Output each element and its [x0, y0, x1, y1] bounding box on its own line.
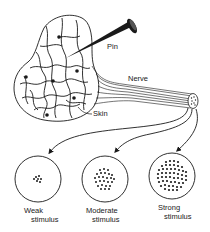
weak-stimulus-caption: Weak stimulus [24, 206, 59, 224]
strong-caption-line1: Strong [158, 203, 192, 212]
nerve-bundle [92, 66, 192, 108]
signal-arrows [50, 108, 197, 152]
moderate-caption-line1: Moderate [86, 206, 120, 215]
nerve-cross-section [188, 94, 198, 109]
skin-label: Skin [93, 110, 108, 118]
moderate-stimulus-caption: Moderate stimulus [86, 206, 120, 224]
skin-patch [14, 15, 99, 121]
strong-stimulus-caption: Strong stimulus [158, 203, 192, 221]
arrow-to-strong [178, 109, 197, 150]
arrow-to-moderate [116, 109, 192, 151]
moderate-stimulus-field [82, 156, 128, 202]
moderate-caption-line2: stimulus [86, 215, 120, 224]
nerve-label: Nerve [128, 75, 148, 83]
strong-stimulus-field [149, 153, 195, 199]
pin-label: Pin [107, 43, 118, 51]
strong-caption-line2: stimulus [158, 212, 192, 221]
weak-caption-line2: stimulus [24, 215, 59, 224]
weak-stimulus-field [15, 156, 61, 202]
weak-caption-line1: Weak [24, 206, 59, 215]
